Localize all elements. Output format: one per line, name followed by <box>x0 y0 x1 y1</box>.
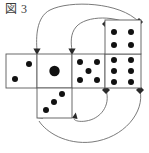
figure-container: 図 3 <box>0 0 149 153</box>
pip <box>128 42 134 48</box>
pip <box>86 68 92 74</box>
pip <box>128 68 134 74</box>
pip <box>128 57 134 63</box>
cell-face-six[interactable] <box>105 54 141 88</box>
pips-face-one <box>49 66 59 76</box>
net-cells-group <box>6 20 141 118</box>
pip <box>128 79 134 85</box>
pip <box>111 42 117 48</box>
pip <box>77 77 83 83</box>
pip <box>128 29 134 35</box>
cell-face-four[interactable] <box>105 20 141 54</box>
arrowhead-inner-bottom <box>72 113 78 120</box>
pip <box>77 59 83 65</box>
pip <box>111 79 117 85</box>
pip <box>49 66 59 76</box>
pip <box>111 68 117 74</box>
pip <box>51 99 57 105</box>
arrow-inner-bottom-path <box>74 90 107 121</box>
pip <box>12 76 18 82</box>
pip <box>26 61 32 67</box>
pip <box>94 77 100 83</box>
pip <box>43 107 49 113</box>
dice-net-diagram <box>0 0 149 153</box>
cell-face-two[interactable] <box>6 54 37 88</box>
pip <box>94 59 100 65</box>
pip <box>111 29 117 35</box>
pip <box>111 57 117 63</box>
pip <box>59 91 65 97</box>
